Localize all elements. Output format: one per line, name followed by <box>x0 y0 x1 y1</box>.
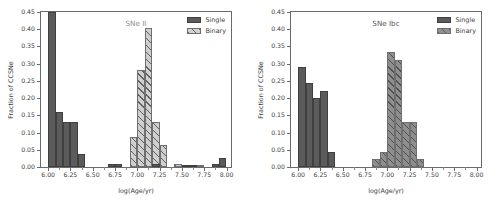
x-tick-label: 6.75 <box>108 172 122 178</box>
x-tick-label: 7.00 <box>380 172 394 178</box>
legend-label-binary: Binary <box>205 27 226 35</box>
x-tick-label: 8.00 <box>470 172 484 178</box>
y-tick <box>37 150 41 151</box>
y-tick-label: 0.10 <box>21 129 35 135</box>
x-axis-label-left: log(Age/yr) <box>40 187 232 195</box>
legend-item-single-right[interactable]: Single <box>437 16 476 24</box>
y-tick-label: 0.35 <box>271 43 285 49</box>
x-tick-minor <box>148 167 149 170</box>
bar-binary <box>130 137 137 167</box>
x-tick-label: 7.50 <box>425 172 439 178</box>
x-tick-minor <box>309 167 310 170</box>
bar-single <box>313 98 320 167</box>
x-tick-label: 6.00 <box>41 172 55 178</box>
y-tick-label: 0.45 <box>271 9 285 15</box>
x-tick-minor <box>354 167 355 170</box>
y-axis-label-left: Fraction of CCSNe <box>6 11 16 168</box>
y-tick-label: 0.20 <box>21 95 35 101</box>
bar-single <box>298 67 305 167</box>
x-tick-minor <box>421 167 422 170</box>
legend-swatch-binary-icon <box>437 28 451 34</box>
x-tick-label: 8.00 <box>220 172 234 178</box>
x-tick-label: 6.50 <box>336 172 350 178</box>
x-tick-minor <box>465 167 466 170</box>
legend-item-binary-right[interactable]: Binary <box>437 27 476 35</box>
x-tick-minor <box>215 167 216 170</box>
plot-area-sne-ibc: SNe Ibc Single Binary 0.000.050.100.150.… <box>290 11 482 168</box>
y-tick-label: 0.00 <box>21 164 35 170</box>
y-tick-label: 0.05 <box>271 147 285 153</box>
y-tick <box>287 98 291 99</box>
bar-binary <box>152 122 159 167</box>
y-tick <box>37 167 41 168</box>
bar-binary <box>387 52 394 167</box>
x-tick-label: 7.25 <box>403 172 417 178</box>
bars-container-right <box>291 12 481 167</box>
bar-single <box>219 158 226 167</box>
legend-label-single: Single <box>205 16 225 24</box>
legend-item-single-left[interactable]: Single <box>187 16 226 24</box>
bar-single <box>108 164 115 167</box>
bar-binary <box>197 165 204 167</box>
legend-swatch-binary-icon <box>187 28 201 34</box>
x-axis-label-right: log(Age/yr) <box>290 187 482 195</box>
y-tick-label: 0.05 <box>21 147 35 153</box>
y-tick <box>287 29 291 30</box>
legend-item-binary-left[interactable]: Binary <box>187 27 226 35</box>
y-tick <box>287 81 291 82</box>
y-tick-label: 0.45 <box>21 9 35 15</box>
y-tick <box>37 81 41 82</box>
bars-container-left <box>41 12 231 167</box>
bar-binary <box>417 159 424 167</box>
legend-swatch-single-icon <box>437 17 451 23</box>
y-tick <box>287 64 291 65</box>
bar-single <box>306 83 313 167</box>
y-tick <box>287 133 291 134</box>
y-tick <box>287 46 291 47</box>
y-tick-label: 0.10 <box>271 129 285 135</box>
x-tick-label: 6.00 <box>291 172 305 178</box>
bar-single <box>63 122 70 167</box>
x-tick-minor <box>104 167 105 170</box>
y-tick-label: 0.25 <box>271 78 285 84</box>
y-tick-label: 0.15 <box>21 112 35 118</box>
y-tick-label: 0.30 <box>21 61 35 67</box>
legend-label-single: Single <box>455 16 475 24</box>
legend-label-binary: Binary <box>455 27 476 35</box>
bar-single <box>70 122 77 167</box>
figure-canvas: Fraction of CCSNe SNe II Single Binary 0… <box>0 0 500 209</box>
bar-single <box>152 164 159 167</box>
bar-single <box>320 91 327 167</box>
bar-single <box>212 164 219 167</box>
x-tick-minor <box>59 167 60 170</box>
y-axis-label-right: Fraction of CCSNe <box>256 11 266 168</box>
x-tick-minor <box>126 167 127 170</box>
bar-binary <box>402 122 409 167</box>
y-tick <box>287 167 291 168</box>
x-tick-minor <box>443 167 444 170</box>
x-tick-label: 7.50 <box>175 172 189 178</box>
y-tick-label: 0.20 <box>271 95 285 101</box>
bar-single <box>328 152 335 167</box>
y-tick <box>37 64 41 65</box>
x-tick-minor <box>193 167 194 170</box>
bar-single <box>182 165 189 167</box>
x-tick-label: 7.75 <box>447 172 461 178</box>
y-tick <box>37 115 41 116</box>
x-tick-label: 6.50 <box>86 172 100 178</box>
bar-binary <box>174 164 181 167</box>
x-tick-minor <box>171 167 172 170</box>
bar-binary <box>395 60 402 167</box>
panel-title-right: SNe Ibc <box>372 19 399 28</box>
y-tick <box>287 150 291 151</box>
y-tick-label: 0.30 <box>271 61 285 67</box>
bar-binary <box>145 28 152 168</box>
y-tick <box>37 29 41 30</box>
bar-binary <box>410 122 417 167</box>
x-tick-label: 6.25 <box>314 172 328 178</box>
bar-binary <box>160 145 167 167</box>
bar-binary <box>372 159 379 167</box>
x-tick-label: 7.25 <box>153 172 167 178</box>
y-tick <box>287 12 291 13</box>
y-tick <box>37 98 41 99</box>
